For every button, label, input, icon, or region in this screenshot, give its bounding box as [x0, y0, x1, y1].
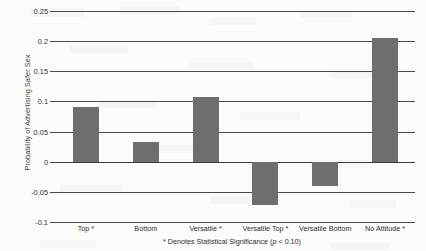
- footnote-italic-p: p: [272, 237, 276, 246]
- x-axis-tick-label: No Attitude *: [365, 224, 405, 233]
- y-axis-tick-label: -0.1: [35, 218, 48, 227]
- y-axis-tick: [50, 162, 56, 163]
- gridline: [56, 11, 415, 12]
- y-axis-tick-label: 0.05: [34, 127, 48, 136]
- y-axis-tick-label: -0.05: [31, 187, 48, 196]
- y-axis-tick: [50, 192, 56, 193]
- y-axis-title: Probability of Advertising Safer Sex: [23, 23, 32, 203]
- gridline: [56, 222, 415, 223]
- x-axis-tick-label: Bottom: [134, 224, 157, 233]
- x-axis-tick-label: Versatile Top *: [242, 224, 288, 233]
- bar: [312, 162, 338, 187]
- bar: [133, 142, 159, 162]
- y-axis-tick: [50, 41, 56, 42]
- gridline: [56, 162, 415, 163]
- bar: [252, 162, 278, 205]
- x-axis-tick-label: Versatile Bottom: [299, 224, 351, 233]
- y-axis-tick-label: 0.2: [38, 37, 48, 46]
- y-axis-tick-label: 0.25: [34, 7, 48, 16]
- y-axis-tick: [50, 101, 56, 102]
- chart-figure: Probability of Advertising Safer Sex 0.2…: [0, 0, 426, 251]
- x-axis-tick-label: Versatile *: [189, 224, 221, 233]
- gridline: [56, 132, 415, 133]
- plot-area: 0.250.20.150.10.050-0.05-0.1: [56, 11, 415, 222]
- gridline: [56, 41, 415, 42]
- y-axis-tick: [50, 71, 56, 72]
- y-axis-tick-label: 0: [44, 157, 48, 166]
- chart-footnote: * Denotes Statistical Significance (p < …: [0, 237, 426, 246]
- y-axis-tick-label: 0.1: [38, 97, 48, 106]
- y-axis-tick-label: 0.15: [34, 67, 48, 76]
- gridline: [56, 71, 415, 72]
- y-axis-tick: [50, 11, 56, 12]
- gridline: [56, 101, 415, 102]
- gridline: [56, 192, 415, 193]
- y-axis-tick: [50, 222, 56, 223]
- bar: [73, 107, 99, 161]
- bar: [193, 97, 219, 162]
- bar: [372, 38, 398, 162]
- y-axis-tick: [50, 132, 56, 133]
- x-axis-tick-label: Top *: [78, 224, 94, 233]
